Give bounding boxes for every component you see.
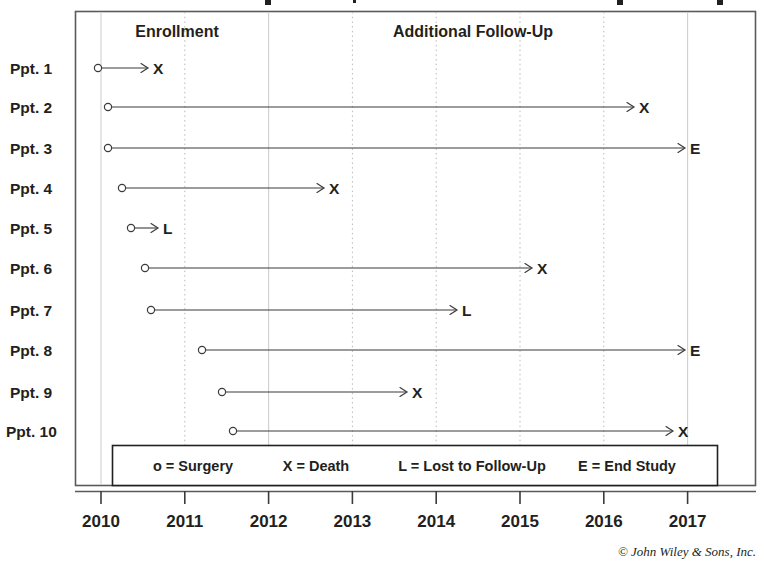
timeline-row: Ppt. 6 X <box>10 260 548 278</box>
end-event-marker: X <box>678 423 689 440</box>
end-event-marker: X <box>537 260 548 277</box>
row-label: Ppt. 6 <box>10 260 53 277</box>
participant-timeline-chart: Enrollment Additional Follow-Up Ppt. 1 X… <box>0 0 764 566</box>
surgery-marker <box>141 264 148 271</box>
surgery-marker <box>127 224 134 231</box>
axis-tick-label: 2013 <box>333 512 371 531</box>
axis-tick-label: 2016 <box>585 512 623 531</box>
axis-tick-label: 2012 <box>250 512 288 531</box>
surgery-marker <box>229 427 236 434</box>
surgery-marker <box>104 144 111 151</box>
row-label: Ppt. 3 <box>10 140 53 157</box>
gridlines <box>101 12 688 485</box>
row-label: Ppt. 5 <box>10 220 53 237</box>
surgery-marker <box>94 64 101 71</box>
axis-tick-label: 2011 <box>166 512 203 531</box>
phase-label-enrollment: Enrollment <box>135 23 219 40</box>
legend-item-death: X = Death <box>283 458 349 474</box>
axis-tick-label: 2017 <box>669 512 707 531</box>
legend-item-lost-to-follow-up: L = Lost to Follow-Up <box>398 458 546 474</box>
legend-item-end-study: E = End Study <box>578 458 676 474</box>
legend: o = Surgery X = Death L = Lost to Follow… <box>113 446 718 486</box>
axis-tick-label: 2010 <box>82 512 120 531</box>
timeline-row: Ppt. 5 L <box>10 220 172 238</box>
timeline-row: Ppt. 1 X <box>10 60 164 78</box>
timeline-row: Ppt. 8 E <box>10 342 700 360</box>
row-label: Ppt. 1 <box>10 60 53 77</box>
end-event-marker: X <box>153 60 164 77</box>
end-event-marker: E <box>690 140 700 157</box>
row-label: Ppt. 2 <box>10 99 52 116</box>
timeline-row: Ppt. 7 L <box>10 302 471 320</box>
x-axis: 2010 2011 2012 2013 2014 2015 2016 2017 <box>75 491 756 531</box>
chart-container: Enrollment Additional Follow-Up Ppt. 1 X… <box>0 0 764 566</box>
surgery-marker <box>118 184 125 191</box>
surgery-marker <box>147 306 154 313</box>
end-event-marker: L <box>163 220 172 237</box>
timeline-row: Ppt. 10 X <box>6 423 689 441</box>
row-label: Ppt. 8 <box>10 342 53 359</box>
phase-label-additional-follow-up: Additional Follow-Up <box>393 23 553 40</box>
surgery-marker <box>218 388 225 395</box>
plot-frame <box>76 12 756 486</box>
surgery-marker <box>198 346 205 353</box>
cropped-title-sliver <box>265 0 723 5</box>
axis-tick-label: 2015 <box>501 512 539 531</box>
timeline-row: Ppt. 9 X <box>10 384 423 402</box>
timeline-row: Ppt. 3 E <box>10 140 700 158</box>
copyright-credit: © John Wiley & Sons, Inc. <box>618 544 756 559</box>
end-event-marker: E <box>690 342 700 359</box>
end-event-marker: X <box>329 180 340 197</box>
end-event-marker: L <box>462 302 471 319</box>
surgery-marker <box>104 103 111 110</box>
row-label: Ppt. 7 <box>10 302 52 319</box>
row-label: Ppt. 10 <box>6 423 57 440</box>
legend-item-surgery: o = Surgery <box>153 458 233 474</box>
end-event-marker: X <box>412 384 423 401</box>
row-label: Ppt. 4 <box>10 180 53 197</box>
end-event-marker: X <box>639 99 650 116</box>
axis-tick-label: 2014 <box>417 512 455 531</box>
timeline-row: Ppt. 4 X <box>10 180 340 198</box>
timeline-row: Ppt. 2 X <box>10 99 650 117</box>
row-label: Ppt. 9 <box>10 384 53 401</box>
